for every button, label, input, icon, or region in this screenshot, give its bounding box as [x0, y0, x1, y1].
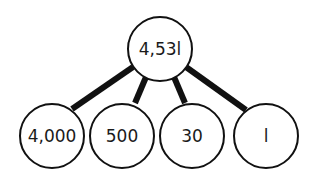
root-node: 4,53l — [128, 17, 192, 81]
child-node-label: 4,000 — [28, 126, 77, 146]
child-node-tens: 30 — [160, 104, 224, 168]
root-node-label: 4,53l — [139, 39, 182, 59]
connector-root-to-tens — [174, 77, 185, 103]
child-node-thousands: 4,000 — [20, 104, 84, 168]
connector-root-to-hundreds — [135, 77, 146, 103]
connector-root-to-thousands — [72, 67, 133, 109]
child-node-label: l — [264, 126, 269, 146]
child-node-label: 30 — [181, 126, 203, 146]
child-node-label: 500 — [106, 126, 138, 146]
child-node-hundreds: 500 — [90, 104, 154, 168]
decomposition-diagram: 4,53l 4,000 500 30 l — [0, 0, 314, 183]
child-node-ones: l — [234, 104, 298, 168]
